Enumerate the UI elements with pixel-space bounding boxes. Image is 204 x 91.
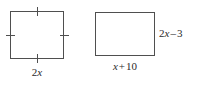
rectangle-width-operator: + — [118, 60, 126, 72]
congruence-tick-icon-top — [37, 7, 38, 16]
congruence-tick-icon-left — [6, 35, 15, 36]
congruence-tick-icon-right — [60, 35, 69, 36]
geometry-figure: 2x x+10 2x–3 — [0, 0, 204, 91]
rectangle-height-operator: – — [169, 27, 177, 39]
congruence-tick-icon-bottom — [37, 54, 38, 63]
rectangle-shape — [95, 12, 155, 56]
square-side-length-label: 2x — [10, 66, 64, 79]
rectangle-width-constant: 10 — [126, 60, 137, 72]
square-side-variable: x — [37, 66, 42, 78]
rectangle-height-label: 2x–3 — [159, 27, 182, 40]
rectangle-height-constant: 3 — [177, 27, 183, 39]
rectangle-width-label: x+10 — [95, 60, 155, 73]
square-shape — [10, 11, 64, 59]
